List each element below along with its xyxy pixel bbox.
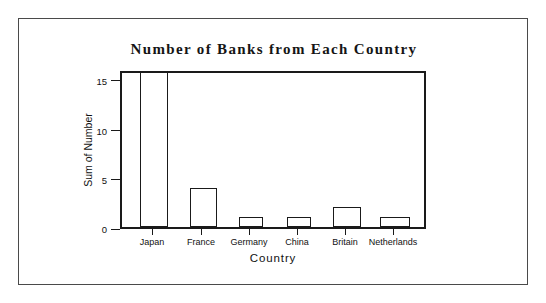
bar	[190, 188, 217, 228]
x-axis-label-group: JapanFranceGermanyChinaBritainNetherland…	[120, 236, 426, 250]
x-axis-tick-label: France	[187, 236, 215, 249]
x-axis-tick-mark	[152, 229, 153, 235]
y-axis-tick-label: 15	[96, 77, 107, 87]
y-axis-tick-label: 10	[96, 126, 107, 136]
bar	[380, 217, 410, 227]
y-axis-tick-mark	[111, 80, 120, 81]
bar-group	[122, 73, 424, 227]
bar	[239, 217, 263, 227]
y-axis-tick-mark	[111, 179, 120, 180]
bar	[287, 217, 311, 227]
x-axis-tick-label: Netherlands	[369, 236, 418, 249]
y-axis-tick-label: 5	[102, 175, 107, 185]
x-axis-tick-label: Britain	[332, 236, 358, 249]
bar	[333, 207, 361, 227]
figure-frame: Number of Banks from Each Country Sum of…	[18, 18, 528, 285]
y-axis-tick-group: 051015	[19, 19, 120, 229]
x-axis-tick-mark	[345, 229, 346, 235]
x-axis-tick-mark	[297, 229, 298, 235]
x-axis-title: Country	[120, 252, 426, 264]
x-axis-tick-label: Japan	[140, 236, 165, 249]
plot-area	[120, 71, 426, 229]
x-axis-tick-label: Germany	[230, 236, 267, 249]
bar	[140, 73, 168, 227]
y-axis-tick-mark	[111, 229, 120, 230]
x-axis-tick-label: China	[285, 236, 309, 249]
y-axis-tick-mark	[111, 130, 120, 131]
y-axis-tick-label: 0	[102, 225, 107, 235]
x-axis-tick-mark	[249, 229, 250, 235]
x-axis-tick-mark	[393, 229, 394, 235]
x-axis-tick-mark	[201, 229, 202, 235]
